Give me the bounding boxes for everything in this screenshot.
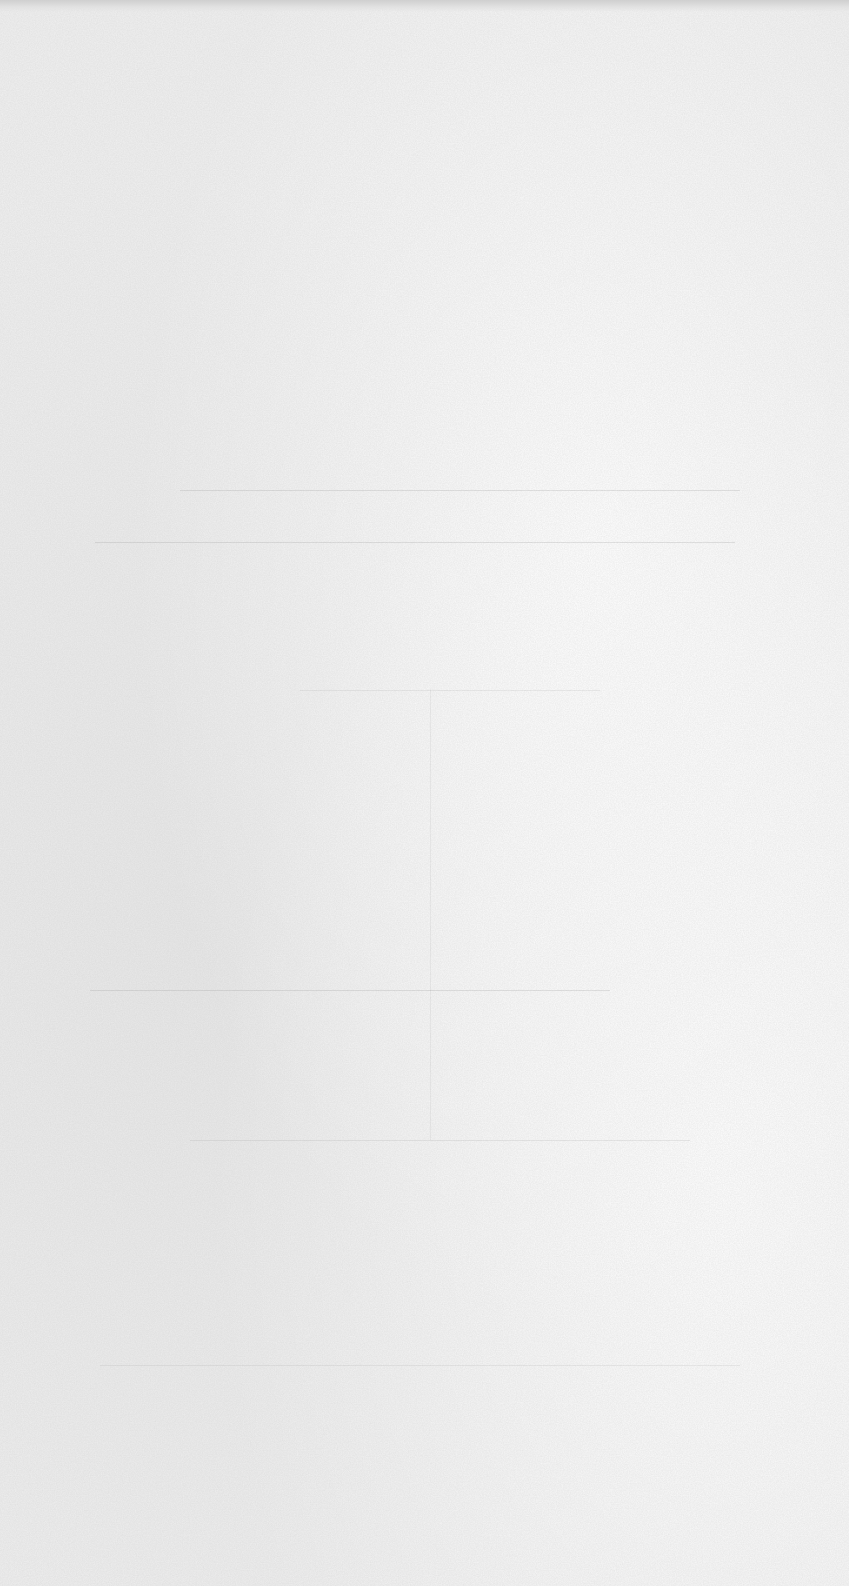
scan-top-edge-shadow [0,0,849,12]
bleed-through-mark [95,542,735,543]
bleed-through-mark [190,1140,690,1141]
bleed-through-mark [90,990,610,991]
blank-paper-page [0,0,849,1586]
bleed-through-mark [180,490,740,491]
bleed-through-mark [300,690,600,691]
bleed-through-mark [430,690,431,1140]
paper-texture [0,0,849,1586]
bleed-through-mark [100,1365,740,1366]
